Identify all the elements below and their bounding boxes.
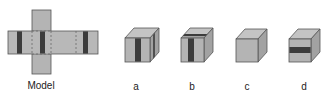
option-b-label: b	[189, 81, 195, 93]
option-c-label: c	[245, 81, 250, 93]
model-label: Model	[27, 80, 54, 92]
cube-c	[236, 29, 267, 62]
option-d-label: d	[301, 81, 307, 93]
cube-a	[125, 28, 159, 62]
option-a-label: a	[133, 81, 139, 93]
net-stripe-1	[17, 31, 22, 53]
net-stripe-2	[40, 31, 45, 53]
net-stripe-3	[83, 31, 88, 53]
cube-b	[181, 28, 213, 62]
cube-d	[289, 29, 320, 62]
